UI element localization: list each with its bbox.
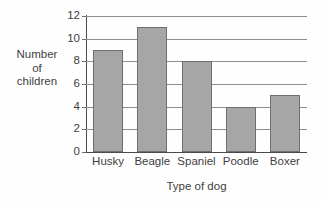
plot-area [86,16,307,152]
y-axis-tick [82,152,86,153]
y-axis-title-line-1: Number [8,48,66,62]
category-label-boxer: Boxer [255,155,315,168]
bar-beagle [137,27,167,152]
y-axis-tick [82,129,86,130]
bar-poodle [226,107,256,152]
y-axis-title: Number of children [8,48,66,89]
y-axis-tick [82,16,86,17]
gridline [86,16,307,17]
x-axis-line [86,152,307,153]
y-tick-label: 4 [60,101,80,113]
y-axis-tick [82,107,86,108]
y-axis-title-line-2: of [8,62,66,76]
x-axis-title: Type of dog [86,180,307,192]
bar-husky [93,50,123,152]
y-tick-label: 2 [60,123,80,135]
y-tick-label: 0 [60,146,80,158]
y-axis-tick [82,39,86,40]
y-axis-tick [82,84,86,85]
bar-spaniel [182,61,212,152]
bar-chart-figure: Number of children 024681012 HuskyBeagle… [0,0,326,203]
y-tick-label: 12 [60,10,80,22]
y-axis-tick [82,61,86,62]
gridline [86,39,307,40]
y-tick-label: 8 [60,55,80,67]
y-tick-label: 10 [60,33,80,45]
bar-boxer [270,95,300,152]
y-tick-label: 6 [60,78,80,90]
y-axis-title-line-3: children [8,75,66,89]
